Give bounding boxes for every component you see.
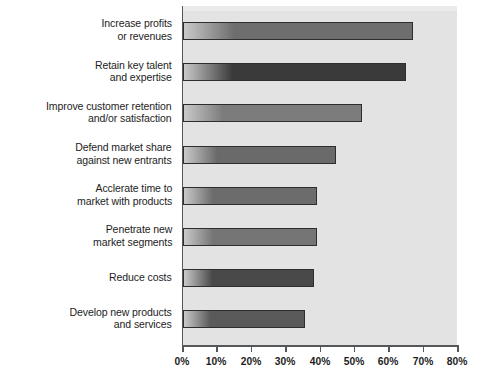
x-axis-tick-label: 40% [309, 355, 330, 367]
bar [183, 310, 305, 328]
category-label: Defend market shareagainst new entrants [76, 141, 172, 166]
x-axis-tick [285, 345, 287, 352]
x-axis-tick-label: 20% [240, 355, 261, 367]
x-axis-tick-label: 70% [412, 355, 433, 367]
x-axis-tick-label: 60% [378, 355, 399, 367]
category-label: Penetrate newmarket segments [93, 223, 172, 248]
bar-chart: Increase profitsor revenuesRetain key ta… [0, 0, 482, 390]
x-axis-tick [251, 345, 253, 352]
bar [183, 146, 336, 164]
category-label: Increase profitsor revenues [102, 17, 172, 42]
bar [183, 228, 317, 246]
category-label: Retain key talentand expertise [95, 59, 172, 84]
category-label: Reduce costs [109, 271, 172, 284]
plot-top-edge [183, 6, 457, 11]
x-axis-tick-label: 50% [344, 355, 365, 367]
bar [183, 269, 314, 287]
plot-area [182, 6, 457, 345]
category-axis-labels: Increase profitsor revenuesRetain key ta… [0, 0, 178, 348]
x-axis-tick [320, 345, 322, 352]
category-label: Develop new productsand services [70, 306, 172, 331]
category-label: Improve customer retentionand/or satisfa… [46, 100, 172, 125]
bar [183, 187, 317, 205]
category-label: Acclerate time tomarket with products [77, 182, 172, 207]
x-axis-tick [457, 345, 459, 352]
x-axis-tick [216, 345, 218, 352]
x-axis-tick [388, 345, 390, 352]
x-axis-tick [182, 345, 184, 352]
x-axis-tick-label: 30% [275, 355, 296, 367]
x-axis-tick [354, 345, 356, 352]
bar [183, 63, 406, 81]
x-axis-tick-label: 10% [206, 355, 227, 367]
x-axis-tick [423, 345, 425, 352]
bar [183, 22, 413, 40]
bar [183, 104, 362, 122]
x-axis-tick-label: 80% [447, 355, 468, 367]
x-axis-tick-label: 0% [175, 355, 190, 367]
